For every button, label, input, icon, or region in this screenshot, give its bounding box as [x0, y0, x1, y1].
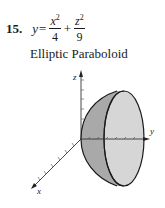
z-axis-label: z	[72, 72, 77, 82]
x-axis-label: x	[36, 186, 41, 196]
y-axis-label: y	[149, 126, 154, 136]
paraboloid-figure: z x y	[0, 0, 165, 208]
x-axis	[31, 139, 81, 189]
